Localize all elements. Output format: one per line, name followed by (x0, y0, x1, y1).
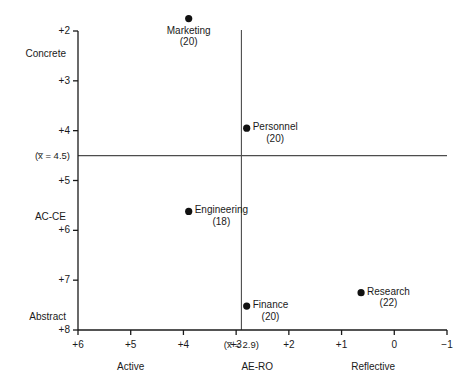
y-axis-mean-label: (x̅ = 4.5) (0, 150, 70, 161)
data-point-name: Marketing (167, 25, 211, 36)
data-point-label: Finance(20) (253, 299, 289, 322)
data-point[interactable] (243, 125, 250, 132)
data-point-count: (20) (253, 311, 289, 323)
data-point[interactable] (243, 302, 250, 309)
data-point-label: Research(22) (367, 286, 410, 309)
y-axis-tick-label: +4 (8, 125, 70, 136)
y-axis-tick-label: +7 (8, 274, 70, 285)
x-axis-title: AE-RO (222, 361, 292, 372)
data-point-count: (18) (195, 216, 248, 228)
y-axis-top-anchor-label: Concrete (4, 48, 66, 59)
data-point-name: Research (367, 286, 410, 297)
x-axis-tick-label: +5 (111, 339, 151, 350)
data-point-count: (22) (367, 297, 410, 309)
data-point-count: (20) (144, 36, 234, 48)
y-axis-tick-label: +3 (8, 75, 70, 86)
data-point-label: Personnel(20) (253, 121, 298, 144)
y-axis-title: AC-CE (4, 211, 66, 222)
data-point[interactable] (185, 208, 192, 215)
y-axis-tick-label: +5 (8, 175, 70, 186)
data-point-name: Engineering (195, 204, 248, 215)
y-axis-tick-label: +6 (8, 224, 70, 235)
x-axis-tick-label: +6 (58, 339, 98, 350)
x-axis-left-anchor-label: Active (96, 361, 166, 372)
x-axis-mean-label: (x̅ = 2.9) (216, 339, 266, 350)
data-point-label: Marketing(20) (144, 25, 234, 48)
y-axis-bottom-anchor-label: Abstract (4, 311, 66, 322)
data-point-name: Personnel (253, 121, 298, 132)
x-axis-tick-label: 0 (374, 339, 414, 350)
data-point[interactable] (357, 289, 364, 296)
scatter-plot-canvas: +2+3+4+5+6+7+8(x̅ = 4.5)ConcreteAC-CEAbs… (0, 0, 454, 384)
data-point-label: Engineering(18) (195, 204, 248, 227)
y-axis-tick-label: +8 (8, 324, 70, 335)
data-point-name: Finance (253, 299, 289, 310)
data-point[interactable] (185, 15, 192, 22)
data-point-count: (20) (253, 133, 298, 145)
x-axis-tick-label: +1 (322, 339, 362, 350)
x-axis-tick-label: +2 (269, 339, 309, 350)
x-axis-tick-label: −1 (427, 339, 454, 350)
y-axis-tick-label: +2 (8, 25, 70, 36)
x-axis-right-anchor-label: Reflective (338, 361, 408, 372)
x-axis-tick-label: +4 (163, 339, 203, 350)
